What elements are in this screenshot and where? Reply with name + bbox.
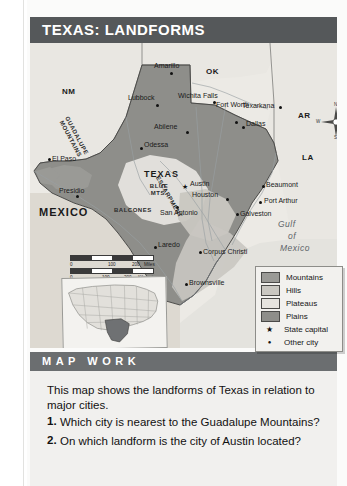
city-label-abilene: Abilene bbox=[154, 123, 177, 130]
city-dot-laredo bbox=[154, 246, 157, 249]
legend-label-mountains: Mountains bbox=[286, 273, 323, 282]
city-label-dallas: Dallas bbox=[246, 120, 265, 127]
question-item-1: 1. Which city is nearest to the Guadalup… bbox=[47, 415, 327, 430]
scale-tick-mi-200: 200 bbox=[132, 262, 140, 267]
city-label-texarkana: Texarkana bbox=[242, 102, 274, 109]
question-item-2: 2. On which landform is the city of Aust… bbox=[47, 434, 327, 449]
city-label-presidio: Presidio bbox=[59, 187, 84, 194]
compass-rose: N S E W bbox=[317, 103, 337, 141]
legend-label-plains: Plains bbox=[286, 312, 308, 321]
legend-item-plains: Plains bbox=[256, 310, 342, 323]
city-label-laredo: Laredo bbox=[158, 241, 180, 248]
city-dot-galveston bbox=[236, 213, 239, 216]
legend-swatch-mountains bbox=[261, 272, 280, 283]
legend-item-state-capital: ★ State capital bbox=[256, 323, 342, 336]
map-title-bar: TEXAS: LANDFORMS bbox=[30, 17, 337, 43]
city-label-port-arthur: Port Arthur bbox=[264, 197, 297, 204]
city-dot-port-arthur bbox=[259, 201, 262, 204]
water-label-of: of bbox=[288, 231, 296, 241]
city-label-odessa: Odessa bbox=[144, 141, 168, 148]
scale-bar-km bbox=[70, 268, 154, 274]
legend-item-plateaus: Plateaus bbox=[256, 297, 342, 310]
state-label-ok: OK bbox=[206, 67, 219, 76]
city-label-galveston: Galveston bbox=[240, 210, 272, 217]
legend-swatch-plateaus bbox=[261, 298, 280, 309]
city-label-brownsville: Brownsville bbox=[189, 279, 224, 286]
legend-item-hills: Hills bbox=[256, 284, 342, 297]
legend-label-plateaus: Plateaus bbox=[286, 299, 317, 308]
feature-label-balcones: BALCONES bbox=[114, 207, 152, 213]
star-icon: ★ bbox=[261, 325, 278, 334]
legend-swatch-hills bbox=[261, 285, 280, 296]
scale-bar-miles bbox=[70, 255, 154, 261]
compass-label-w: W bbox=[316, 119, 320, 124]
city-label-amarillo: Amarillo bbox=[154, 62, 179, 69]
legend-label-hills: Hills bbox=[286, 286, 301, 295]
city-dot-fort-worth bbox=[235, 121, 238, 124]
question-text-1: Which city is nearest to the Guadalupe M… bbox=[60, 415, 320, 430]
us-locator-svg bbox=[62, 277, 164, 347]
mapwork-intro: This map shows the landforms of Texas in… bbox=[47, 383, 322, 413]
mapwork-bar: MAP WORK bbox=[30, 352, 337, 371]
city-dot-dallas bbox=[242, 126, 245, 129]
compass-label-n: N bbox=[334, 102, 337, 107]
scale-tick-mi-0: 0 bbox=[70, 262, 73, 267]
page-gutter-rule bbox=[23, 0, 24, 486]
textbook-page: TEXAS: LANDFORMS bbox=[0, 0, 347, 486]
compass-label-s: S bbox=[334, 135, 337, 140]
city-label-houston: Houston bbox=[192, 191, 218, 198]
state-label-la: LA bbox=[302, 153, 314, 162]
legend-item-mountains: Mountains bbox=[256, 271, 342, 284]
city-label-wichita-falls: Wichita Falls bbox=[178, 92, 218, 99]
legend-item-other-city: ● Other city bbox=[256, 336, 342, 349]
scale-unit-miles: Miles bbox=[144, 262, 155, 267]
city-dot-texarkana bbox=[279, 106, 282, 109]
map-legend: Mountains Hills Plateaus Plains ★ State … bbox=[255, 266, 343, 352]
city-label-el-paso: El Paso bbox=[52, 155, 68, 163]
water-label-gulf: Gulf bbox=[278, 219, 296, 229]
us-locator-inset bbox=[61, 276, 167, 348]
city-dot-odessa bbox=[140, 147, 143, 150]
city-dot-lubbock bbox=[156, 104, 159, 107]
city-label-corpus-christi: Corpus Christi bbox=[203, 248, 247, 255]
question-number-2: 2. bbox=[47, 434, 60, 449]
city-label-fort-worth: Fort Worth bbox=[216, 101, 242, 109]
city-label-austin: Austin bbox=[190, 180, 209, 187]
mapwork-heading: MAP WORK bbox=[42, 355, 140, 367]
city-dot-corpus-christi bbox=[199, 251, 202, 254]
city-dot-brownsville bbox=[185, 283, 188, 286]
mapwork-questions-panel: This map shows the landforms of Texas in… bbox=[30, 371, 337, 486]
question-number-1: 1. bbox=[47, 415, 60, 430]
mapwork-question-list: 1. Which city is nearest to the Guadalup… bbox=[47, 415, 327, 453]
city-dot-houston bbox=[226, 198, 229, 201]
city-label-beaumont: Beaumont bbox=[266, 181, 298, 188]
city-dot-abilene bbox=[186, 131, 189, 134]
capital-star-austin: ★ bbox=[182, 183, 188, 190]
city-label-san-antonio: San Antonio bbox=[160, 209, 190, 217]
country-label-mexico: MEXICO bbox=[39, 206, 88, 218]
legend-label-state-capital: State capital bbox=[284, 325, 328, 334]
city-dot-presidio bbox=[76, 195, 79, 198]
page-title: TEXAS: LANDFORMS bbox=[42, 21, 205, 38]
question-text-2: On which landform is the city of Austin … bbox=[60, 434, 301, 449]
dot-icon: ● bbox=[261, 338, 278, 347]
city-dot-el-paso bbox=[48, 158, 51, 161]
state-label-nm: NM bbox=[62, 87, 75, 96]
city-dot-amarillo bbox=[170, 72, 173, 75]
city-label-lubbock: Lubbock bbox=[128, 94, 154, 101]
state-label-ar: AR bbox=[298, 111, 311, 120]
city-dot-beaumont bbox=[262, 185, 265, 188]
scale-tick-mi-100: 100 bbox=[108, 262, 116, 267]
legend-label-other-city: Other city bbox=[284, 338, 318, 347]
water-label-mexico: Mexico bbox=[280, 243, 310, 253]
legend-swatch-plains bbox=[261, 311, 280, 322]
